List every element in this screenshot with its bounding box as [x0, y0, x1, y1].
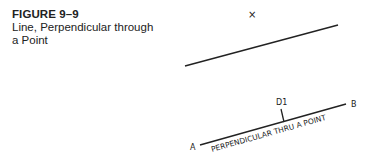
endpoint-a-label: A: [190, 143, 196, 152]
given-line: [185, 25, 338, 66]
diagram-canvas: × A B D1 PERPENDICULAR THRU A POINT: [0, 0, 374, 161]
point-d1-label: D1: [276, 98, 287, 107]
point-marker-x: ×: [248, 9, 256, 20]
endpoint-b-label: B: [351, 100, 357, 109]
line-caption: PERPENDICULAR THRU A POINT: [210, 113, 327, 154]
line-ab: [200, 104, 346, 145]
perpendicular-tick: [281, 109, 284, 122]
